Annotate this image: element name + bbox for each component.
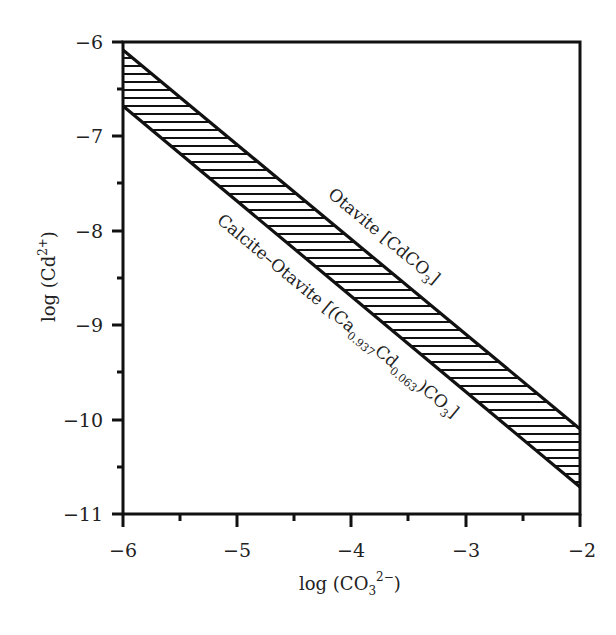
x-tick-label: −5 [223,539,251,561]
y-axis-label: log (Cd2+) [36,231,59,322]
x-axis-label: log (CO32−) [299,570,401,598]
calcite-otavite-line [123,106,580,487]
y-tick-label: −7 [75,125,103,147]
y-tick-label: −10 [63,409,103,431]
hatched-region [123,58,580,482]
otavite-line [123,50,580,429]
x-tick-label: −6 [109,539,137,561]
chart: −6 −7 −8 −9 −10 −11 −6 −5 −4 −3 −2 log (… [0,0,616,635]
y-tick-label: −11 [63,503,103,525]
y-tick-label: −8 [75,220,103,242]
x-tick-labels: −6 −5 −4 −3 −2 [109,539,596,561]
y-tick-labels: −6 −7 −8 −9 −10 −11 [63,31,103,525]
y-tick-label: −6 [75,31,103,53]
x-tick-label: −4 [337,539,365,561]
x-tick-label: −2 [568,539,596,561]
y-tick-label: −9 [75,314,103,336]
x-axis-ticks [123,514,580,527]
x-tick-label: −3 [452,539,480,561]
plot-frame [123,42,580,514]
y-axis-ticks [112,42,123,514]
